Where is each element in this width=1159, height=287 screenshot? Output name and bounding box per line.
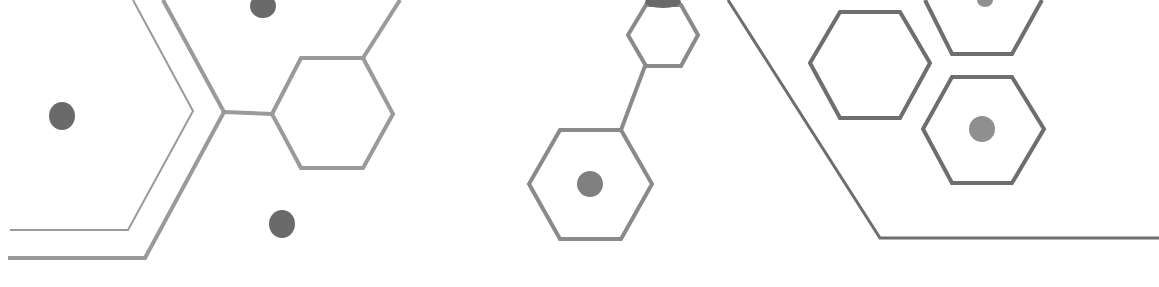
- decorative-hexagon-illustration: [0, 0, 1159, 287]
- hexagon-pattern-graphic: [0, 0, 1159, 287]
- hexagon-d-shape: [810, 12, 930, 118]
- middle-connector-line: [621, 66, 645, 130]
- top-left-dot: [250, 0, 276, 18]
- bottom-left-dot: [269, 210, 295, 238]
- left-dot: [49, 102, 75, 130]
- hexagon-a-shape: [272, 58, 393, 168]
- left-thin-chevron-line: [10, 0, 193, 230]
- hexagon-c-dot: [577, 171, 603, 197]
- hex-e-partial-line: [925, 0, 1042, 54]
- top-right-dot: [977, 0, 993, 7]
- left-connector-line: [224, 112, 272, 114]
- left-thick-chevron-line: [8, 0, 224, 258]
- hexagon-f-dot: [969, 116, 995, 142]
- hexagon-b-shape: [628, 5, 698, 66]
- hex-a-top-connector-line: [363, 0, 400, 58]
